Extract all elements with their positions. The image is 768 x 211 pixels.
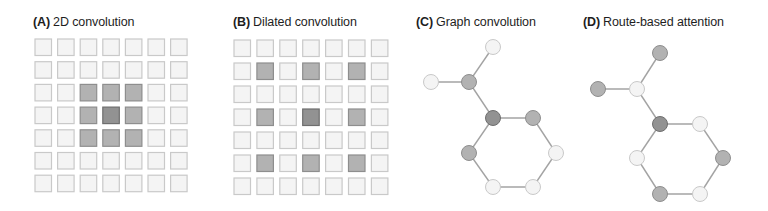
grid-cell xyxy=(234,132,251,149)
graph-node-center xyxy=(653,117,668,132)
grid-cell xyxy=(280,155,297,172)
grid-cell xyxy=(125,39,141,56)
grid-cell xyxy=(171,84,188,101)
graph-node xyxy=(486,180,501,195)
grid-cell xyxy=(148,175,165,192)
grid-cell xyxy=(326,63,343,80)
grid-cell xyxy=(326,109,343,126)
grid-cell xyxy=(148,107,165,124)
grid-cell xyxy=(171,39,188,56)
grid-cell xyxy=(234,86,251,103)
grid-cell-highlighted xyxy=(303,155,320,172)
grid-cell xyxy=(35,39,52,56)
grid-cell xyxy=(326,132,343,149)
grid-cell-highlighted xyxy=(349,63,366,80)
grid-cell-highlighted xyxy=(303,63,320,80)
grid-cell xyxy=(35,84,52,101)
grid-cell-center xyxy=(103,107,120,124)
grid-cell xyxy=(371,155,388,172)
grid-cell-highlighted xyxy=(125,84,141,101)
grid-cell xyxy=(234,40,251,57)
grid-cell-highlighted xyxy=(103,130,120,147)
grid-cell xyxy=(125,175,141,192)
graph-node-center xyxy=(486,111,501,126)
grid-cell-highlighted xyxy=(349,155,366,172)
panel-a-grid xyxy=(35,39,187,192)
grid-cell-highlighted xyxy=(125,130,141,147)
graph-node-highlighted xyxy=(462,146,477,161)
grid-cell xyxy=(171,62,188,78)
grid-cell xyxy=(371,109,388,126)
grid-cell xyxy=(148,84,165,101)
grid-cell xyxy=(58,175,75,192)
grid-cell xyxy=(371,63,388,80)
grid-cell-highlighted xyxy=(103,84,120,101)
grid-cell xyxy=(234,109,251,126)
grid-cell-highlighted xyxy=(80,130,97,147)
graph-node-highlighted xyxy=(591,82,606,97)
grid-cell xyxy=(58,107,75,124)
grid-cell xyxy=(103,62,120,78)
grid-cell-center xyxy=(303,109,320,126)
grid-cell-highlighted xyxy=(125,107,141,124)
grid-cell-highlighted xyxy=(257,109,274,126)
grid-cell xyxy=(103,39,120,56)
grid-cell xyxy=(303,40,320,57)
grid-cell xyxy=(371,132,388,149)
grid-cell xyxy=(80,39,97,56)
grid-cell xyxy=(257,40,274,57)
graph-node-highlighted xyxy=(653,187,668,202)
grid-cell xyxy=(171,175,188,192)
graph-node xyxy=(526,180,541,195)
grid-cell xyxy=(280,178,297,195)
grid-cell xyxy=(103,175,120,192)
grid-cell xyxy=(349,178,366,195)
grid-cell-highlighted xyxy=(80,107,97,124)
grid-cell xyxy=(148,62,165,78)
grid-cell-highlighted xyxy=(80,84,97,101)
grid-cell xyxy=(171,107,188,124)
graph-node xyxy=(630,82,645,97)
grid-cell xyxy=(35,130,52,147)
graph-node-highlighted xyxy=(653,46,668,61)
grid-cell xyxy=(303,178,320,195)
grid-cell xyxy=(125,62,141,78)
graph-node-highlighted xyxy=(526,111,541,126)
grid-cell xyxy=(234,63,251,80)
grid-cell xyxy=(125,153,141,170)
grid-cell xyxy=(58,153,75,170)
grid-cell xyxy=(234,178,251,195)
grid-cell xyxy=(280,40,297,57)
grid-cell xyxy=(349,132,366,149)
grid-cell xyxy=(371,178,388,195)
grid-cell xyxy=(171,130,188,147)
grid-cell xyxy=(35,175,52,192)
grid-cell xyxy=(303,86,320,103)
grid-cell xyxy=(280,86,297,103)
grid-cell xyxy=(280,132,297,149)
grid-cell xyxy=(171,153,188,170)
grid-cell xyxy=(257,86,274,103)
grid-cell xyxy=(103,153,120,170)
panel-c-graph xyxy=(424,40,564,195)
grid-cell xyxy=(80,175,97,192)
grid-cell xyxy=(303,132,320,149)
panel-d-graph xyxy=(591,46,731,202)
graph-node xyxy=(424,75,439,90)
graph-node xyxy=(693,187,708,202)
graph-node xyxy=(549,146,564,161)
grid-cell xyxy=(80,62,97,78)
grid-cell xyxy=(326,40,343,57)
grid-cell xyxy=(349,40,366,57)
graph-node-highlighted xyxy=(462,75,477,90)
grid-cell xyxy=(326,86,343,103)
grid-cell xyxy=(58,84,75,101)
grid-cell xyxy=(58,62,75,78)
grid-cell xyxy=(35,62,52,78)
grid-cell-highlighted xyxy=(257,155,274,172)
grid-cell xyxy=(35,107,52,124)
grid-cell xyxy=(58,39,75,56)
figure-canvas xyxy=(0,0,768,211)
graph-node xyxy=(486,40,501,55)
grid-cell-highlighted xyxy=(349,109,366,126)
